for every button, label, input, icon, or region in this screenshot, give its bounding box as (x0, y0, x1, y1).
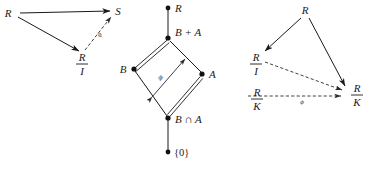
label-left-R: R (4, 7, 12, 19)
label-right-R-over-K-numerator: R (353, 82, 361, 94)
label-right-R-over-I-denominator: I (253, 65, 259, 77)
label-right-R-over-I: R I (250, 51, 262, 77)
label-middle-B-cap-A: B ∩ A (175, 113, 202, 125)
label-right-R: R (301, 4, 309, 16)
edge-R-to-R-over-I (18, 17, 79, 51)
node-dot-B-plus-A (165, 35, 170, 40)
label-middle-R: R (174, 2, 182, 14)
panel-right-quotient-triangle: R R I R K R K ϕ (248, 4, 363, 112)
edge-B-plus-A-to-A (170, 41, 201, 72)
label-right-R-over-I-numerator: R (252, 51, 260, 63)
label-middle-B: B (120, 63, 127, 75)
node-dot-A (199, 71, 204, 76)
label-middle-B-plus-A: B + A (175, 26, 201, 38)
node-dot-R (166, 6, 171, 11)
label-left-R-over-I: R I (76, 51, 88, 77)
node-dot-B (131, 66, 136, 71)
label-left-S: S (115, 5, 121, 17)
node-dot-zero (166, 150, 171, 155)
edge-right-R-to-R-over-K (309, 18, 345, 86)
edge-right-R-over-I-to-R-over-K-dashed (265, 62, 342, 90)
diagram-svg: R S R I ϕ ≅ (0, 0, 380, 176)
label-middle-zero: {0} (174, 147, 189, 158)
edge-R-to-S (20, 11, 110, 13)
label-left-R-over-I-denominator: I (79, 65, 85, 77)
edge-right-R-to-R-over-I (265, 18, 301, 51)
edge-B-plus-A-to-B-double (133, 40, 169, 72)
label-right-phi: ϕ (300, 98, 304, 106)
panel-left-homomorphism-triangle: R S R I ϕ (4, 5, 122, 77)
label-left-R-over-I-numerator: R (78, 51, 86, 63)
panel-middle-modular-lattice: ≅ R B + A B A B ∩ A {0} (120, 2, 216, 158)
label-right-R-over-K-secondary: R K (251, 86, 263, 112)
figure-canvas: R S R I ϕ ≅ (0, 0, 380, 176)
label-middle-A: A (208, 68, 216, 80)
label-right-R-over-K: R K (351, 82, 363, 108)
label-right-R-over-K-secondary-numerator: R (253, 86, 261, 98)
edge-A-to-B-cap-A-double (167, 76, 202, 116)
label-right-R-over-K-denominator: K (352, 96, 361, 108)
node-dot-B-cap-A (165, 115, 170, 120)
label-right-R-over-K-secondary-denominator: K (252, 100, 261, 112)
